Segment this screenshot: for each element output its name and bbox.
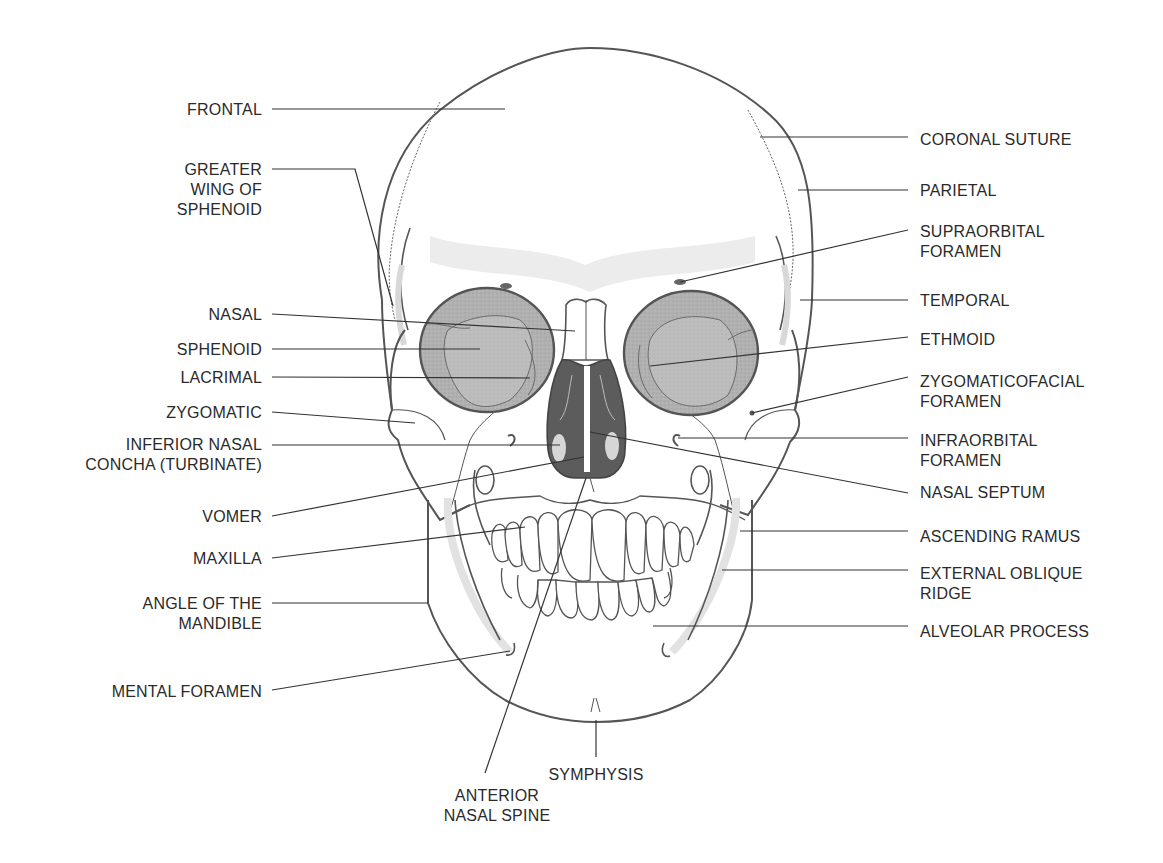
supraorbital-foramen-left [500,283,512,289]
label-mental-foramen: MENTAL FORAMEN [112,682,262,702]
label-symphysis: SYMPHYSIS [548,765,643,785]
label-ethmoid: ETHMOID [920,330,995,350]
leader-line-maxilla [272,527,525,558]
infraorbital-foramen-right [674,435,680,446]
label-inferior-nasal-concha: INFERIOR NASAL CONCHA (TURBINATE) [85,435,262,475]
label-supraorbital-foramen: SUPRAORBITAL FORAMEN [920,222,1045,262]
teeth [492,510,694,620]
label-greater-wing-of-sphenoid: GREATER WING OF SPHENOID [177,160,262,220]
mental-foramen-right [662,643,670,656]
nasal-septum [584,366,590,472]
nasal-bone [562,299,608,360]
label-nasal-septum: NASAL SEPTUM [920,483,1045,503]
label-infraorbital-foramen: INFRAORBITAL FORAMEN [920,431,1038,471]
label-coronal-suture: CORONAL SUTURE [920,130,1072,150]
leader-line-mental-foramen [272,651,510,690]
label-temporal: TEMPORAL [920,291,1010,311]
label-external-oblique-ridge: EXTERNAL OBLIQUE RIDGE [920,564,1083,604]
coronoid-right [691,466,709,494]
infraorbital-foramen-left [508,435,514,446]
label-ascending-ramus: ASCENDING RAMUS [920,527,1080,547]
label-zygomaticofacial-foramen: ZYGOMATICOFACIAL FORAMEN [920,372,1085,412]
leader-line-nasal-septum [590,432,908,493]
label-sphenoid: SPHENOID [177,340,262,360]
label-anterior-nasal-spine: ANTERIOR NASAL SPINE [444,786,551,826]
label-nasal: NASAL [209,305,262,325]
leader-line-greater-wing-of-sphenoid [272,169,393,306]
label-vomer: VOMER [202,507,262,527]
label-alveolar-process: ALVEOLAR PROCESS [920,622,1089,642]
label-frontal: FRONTAL [187,100,262,120]
label-angle-of-mandible: ANGLE OF THE MANDIBLE [143,594,262,634]
label-lacrimal: LACRIMAL [180,368,262,388]
coronoid-left [476,466,494,494]
leader-line-zygomatic [272,412,415,423]
label-maxilla: MAXILLA [193,549,262,569]
label-zygomatic: ZYGOMATIC [166,403,262,423]
inferior-concha-left [552,434,566,462]
label-parietal: PARIETAL [920,181,997,201]
